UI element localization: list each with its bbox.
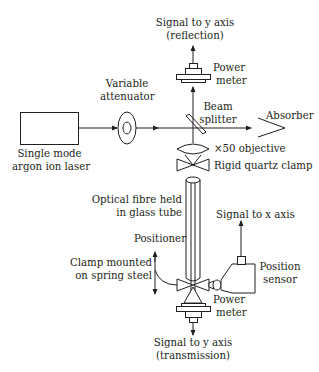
attenuator-outer <box>118 112 136 144</box>
transmission-cone <box>184 287 202 303</box>
position-sensor-label: Position sensor <box>258 261 302 286</box>
attenuator-label: Variable attenuator <box>100 78 154 103</box>
setup-diagram <box>0 0 319 372</box>
spring-steel-arm <box>155 270 177 285</box>
power-meter-top-cap <box>190 64 198 69</box>
power-meter-top-label: Power meter <box>213 62 247 87</box>
spring-clamp-label: Clamp mounted on spring steel <box>68 257 152 282</box>
signal-transmission-label: Signal to y axis (transmission) <box>148 337 238 362</box>
beam-splitter-label: Beam splitter <box>193 101 243 126</box>
power-meter-bottom-label: Power meter <box>213 294 247 319</box>
position-sensor-body <box>221 264 255 293</box>
objective-lens <box>177 144 209 154</box>
power-meter-bottom-base <box>177 307 211 312</box>
power-meter-bottom-body <box>186 312 202 318</box>
laser-box <box>21 113 79 145</box>
positioner-label: Positioner <box>134 233 186 246</box>
power-meter-bottom-cap <box>190 318 198 323</box>
position-sensor-top <box>238 257 246 265</box>
objective-label: ×50 objective <box>214 143 285 156</box>
laser-label: Single mode argon ion laser <box>12 148 87 173</box>
power-meter-top-base <box>177 75 211 80</box>
power-meter-top-body <box>186 69 202 75</box>
absorber-label: Absorber <box>266 110 314 123</box>
signal-x-label: Signal to x axis <box>216 209 295 222</box>
quartz-clamp-label: Rigid quartz clamp <box>214 160 312 173</box>
glass-tube-top <box>186 177 200 183</box>
fibre-label: Optical fibre held in glass tube <box>90 194 182 219</box>
signal-reflection-label: Signal to y axis (reflection) <box>150 17 240 42</box>
